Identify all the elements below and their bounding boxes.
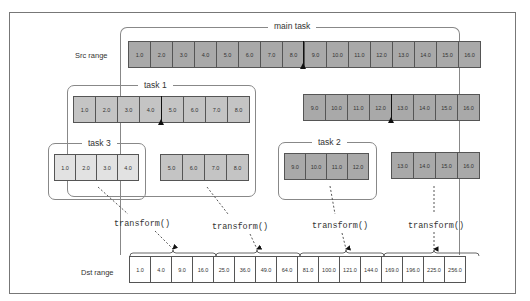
dashed-arrow-1a: [98, 187, 128, 214]
connectors: [0, 0, 530, 301]
